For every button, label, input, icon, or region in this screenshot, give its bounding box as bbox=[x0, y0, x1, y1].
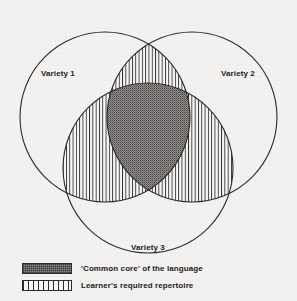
legend-swatch-common-core bbox=[22, 263, 72, 274]
legend-item-common-core: 'Common core' of the language bbox=[22, 261, 282, 275]
legend-swatch-learner-repertoire bbox=[22, 280, 72, 291]
label-variety-1: Variety 1 bbox=[41, 69, 75, 78]
legend-label-learner-repertoire: Learner's required repertoire bbox=[81, 281, 193, 290]
label-variety-3: Variety 3 bbox=[131, 243, 165, 252]
label-variety-2: Variety 2 bbox=[221, 69, 255, 78]
legend: 'Common core' of the language Learner's … bbox=[22, 261, 282, 295]
venn-diagram: Variety 1 Variety 2 Variety 3 bbox=[0, 0, 297, 301]
legend-label-common-core: 'Common core' of the language bbox=[81, 264, 203, 273]
figure-page: Variety 1 Variety 2 Variety 3 'Common co… bbox=[0, 0, 297, 301]
legend-item-learner-repertoire: Learner's required repertoire bbox=[22, 278, 282, 292]
